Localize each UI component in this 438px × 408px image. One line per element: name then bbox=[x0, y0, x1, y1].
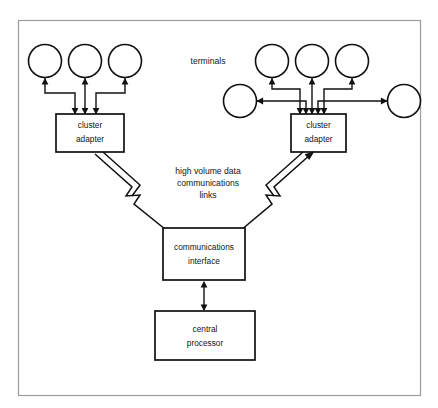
terminal-circle bbox=[29, 45, 62, 78]
arrowhead-up-icon bbox=[82, 78, 89, 85]
wire-terminal-right-3 bbox=[324, 78, 352, 114]
arrowhead-left-icon bbox=[257, 98, 264, 105]
central-processor-label-line2: processor bbox=[187, 338, 224, 348]
link-note-line1: high volume data bbox=[175, 166, 241, 176]
wire-terminal-left-1 bbox=[45, 78, 75, 114]
arrowhead-up-icon bbox=[269, 78, 276, 85]
communications-interface-label-line1: communications bbox=[174, 242, 234, 252]
terminal-circle bbox=[256, 45, 289, 78]
arrowhead-right-icon bbox=[381, 98, 388, 105]
link-note-line2: communications bbox=[177, 178, 239, 188]
central-processor-box bbox=[155, 311, 255, 360]
communications-interface-label-line2: interface bbox=[188, 256, 220, 266]
wire-terminal-left-3 bbox=[96, 78, 125, 114]
terminal-circle bbox=[336, 45, 369, 78]
wire-terminal-right-side-right bbox=[318, 101, 388, 114]
diagram-canvas: cluster adapter cluster adapter bbox=[0, 0, 438, 408]
high-volume-link-right-edge bbox=[266, 152, 303, 196]
arrowhead-up-icon bbox=[122, 78, 129, 85]
network-topology-diagram: cluster adapter cluster adapter bbox=[0, 0, 438, 408]
terminal-circle bbox=[109, 45, 142, 78]
cluster-adapter-right-label-line1: cluster bbox=[306, 120, 331, 130]
terminal-circle bbox=[296, 45, 329, 78]
arrowhead-up-icon bbox=[309, 78, 316, 85]
wire-terminal-right-side-left bbox=[257, 101, 307, 114]
wire-terminal-right-1 bbox=[272, 78, 300, 114]
cluster-adapter-left-label-line1: cluster bbox=[78, 120, 103, 130]
terminal-circle bbox=[388, 85, 421, 118]
cluster-adapter-left-label-line2: adapter bbox=[76, 134, 104, 144]
arrowhead-up-icon bbox=[201, 281, 208, 288]
arrowhead-up-icon bbox=[42, 78, 49, 85]
terminals-label: terminals bbox=[191, 56, 226, 66]
high-volume-link-left-edge bbox=[103, 152, 140, 196]
arrowhead-up-icon bbox=[349, 78, 356, 85]
communications-interface-box bbox=[163, 228, 245, 280]
link-note-line3: links bbox=[199, 190, 216, 200]
terminal-circle bbox=[224, 85, 257, 118]
central-processor-label-line1: central bbox=[193, 324, 218, 334]
terminal-circle bbox=[69, 45, 102, 78]
cluster-adapter-right-label-line2: adapter bbox=[304, 134, 332, 144]
arrowhead-down-icon bbox=[201, 304, 208, 311]
